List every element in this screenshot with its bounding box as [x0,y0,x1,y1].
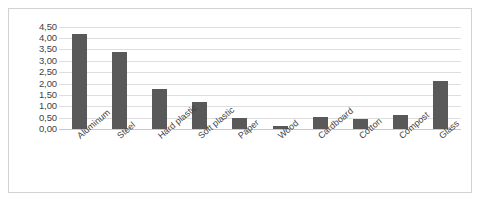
x-tick-slot: Compost [381,131,421,189]
bar[interactable] [433,81,448,129]
x-tick-slot: Aluminum [59,131,99,189]
bar[interactable] [72,34,87,129]
bar-slot [381,21,421,129]
y-tick-label: 1,50 [15,90,57,100]
y-tick-label: 0,00 [15,124,57,134]
plot-wrapper: 4,504,003,503,002,502,001,501,000,500,00… [9,9,471,192]
y-tick-label: 0,50 [15,113,57,123]
y-tick-label: 3,50 [15,44,57,54]
x-tick-slot: Glass [421,131,461,189]
y-axis: 4,504,003,503,002,502,001,501,000,500,00 [13,21,57,129]
bar-slot [139,21,179,129]
bar-slot [300,21,340,129]
bar[interactable] [152,89,167,129]
bar-chart-figure: 4,504,003,503,002,502,001,501,000,500,00… [8,8,472,193]
x-tick-slot: Cardboard [300,131,340,189]
y-tick-label: 2,50 [15,67,57,77]
x-tick-slot: Hard plastic [139,131,179,189]
x-tick-slot: Paper [220,131,260,189]
y-tick-label: 3,00 [15,56,57,66]
plot-area [59,21,461,129]
x-tick-slot: Wood [260,131,300,189]
y-tick-label: 4,50 [15,22,57,32]
bar-slot [59,21,99,129]
y-tick-label: 1,00 [15,101,57,111]
x-tick-slot: Soft plastic [180,131,220,189]
x-axis: AluminumSteelHard plasticSoft plasticPap… [59,131,461,189]
x-tick-slot: Steel [99,131,139,189]
bar-slot [260,21,300,129]
bars-layer [59,21,461,129]
bar[interactable] [112,52,127,129]
y-tick-label: 4,00 [15,33,57,43]
y-tick-label: 2,00 [15,79,57,89]
x-tick-slot: Cotton [340,131,380,189]
